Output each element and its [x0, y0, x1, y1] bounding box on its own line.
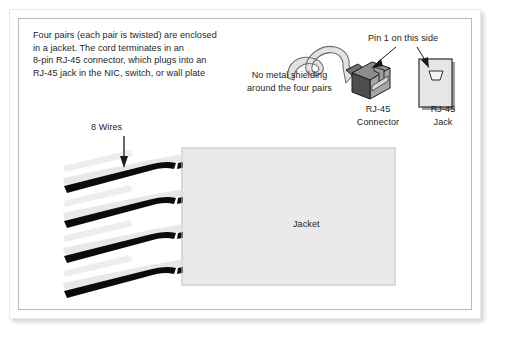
shielding-note: No metal shielding around the four pairs	[247, 69, 332, 94]
utp-cable-figure: Four pairs (each pair is twisted) are en…	[0, 0, 508, 352]
rj45-connector-label: RJ-45 Connector	[347, 103, 409, 128]
intro-text: Four pairs (each pair is twisted) are en…	[33, 29, 217, 79]
pin1-note: Pin 1 on this side	[368, 32, 438, 45]
jacket-label: Jacket	[293, 218, 320, 231]
rj45-jack-label: RJ-45 Jack	[420, 103, 466, 128]
eight-wires-label: 8 Wires	[91, 121, 122, 134]
